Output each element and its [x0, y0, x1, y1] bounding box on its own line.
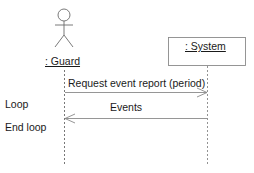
system-object-label: : System: [185, 40, 226, 52]
loop-end-annotation: End loop: [5, 121, 46, 133]
message-arrow-request: [65, 88, 207, 97]
message-label-events: Events: [110, 101, 142, 113]
loop-start-annotation: Loop: [5, 98, 28, 110]
guard-actor-label: : Guard: [45, 55, 80, 67]
message-arrow-events: [65, 114, 207, 123]
message-label-request: Request event report (period): [68, 77, 205, 89]
actor-icon: [55, 9, 73, 47]
